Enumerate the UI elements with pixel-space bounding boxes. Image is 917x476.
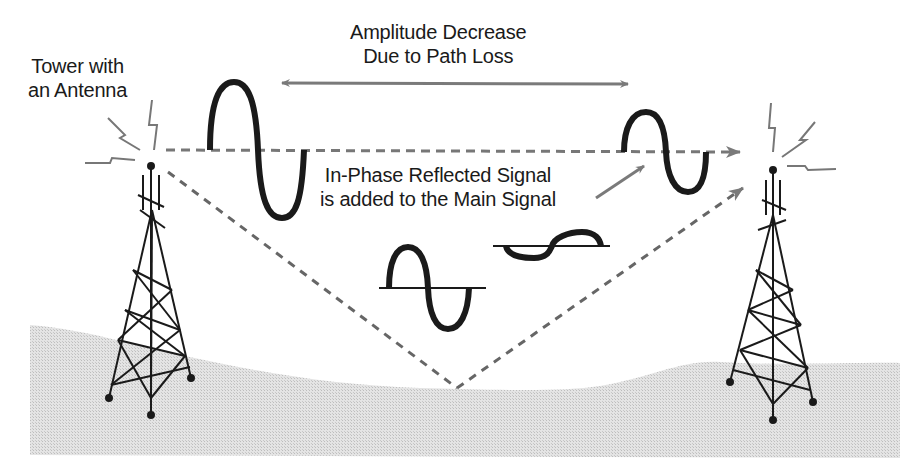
amplitude-label-line1: Amplitude Decrease [350,20,527,44]
inphase-label-line2: is added to the Main Signal [320,187,556,211]
amplitude-label: Amplitude Decrease Due to Path Loss [350,20,527,68]
tower-label-line1: Tower with [28,54,127,78]
transmit-spark-icons [85,100,157,163]
tower-label-line2: an Antenna [28,78,127,102]
amplitude-arrow [282,83,628,84]
amplitude-label-line2: Due to Path Loss [350,44,527,68]
inphase-label: In-Phase Reflected Signal is added to th… [320,163,556,211]
receive-spark-icons [769,103,836,170]
inphase-label-line1: In-Phase Reflected Signal [320,163,556,187]
direct-path-line [166,150,740,152]
inphase-arrow [596,166,644,198]
reflected-path-up [457,188,743,388]
multipath-diagram [0,0,917,476]
tower-label: Tower with an Antenna [28,54,127,102]
